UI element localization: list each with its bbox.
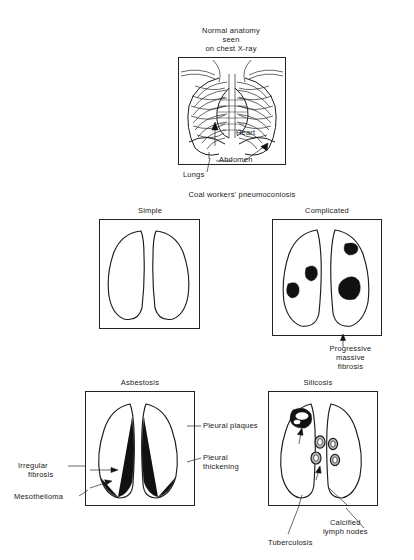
normal-title-line1: Normal anatomy (176, 26, 286, 35)
complicated-cwp-frame (272, 219, 382, 336)
simple-cwp-frame (99, 219, 200, 329)
label-heart: Heart (236, 128, 255, 137)
coal-section-title: Coal workers' pneumoconiosis (152, 190, 332, 199)
normal-anatomy-frame (178, 57, 286, 165)
pmf-mass-left-lower (287, 283, 299, 298)
pmf-caption-line2: massive (313, 353, 388, 362)
normal-title-line3: on chest X-ray (176, 44, 286, 53)
label-tuberculosis: Tuberculosis (268, 538, 313, 547)
normal-leader-lines (170, 150, 300, 180)
silicosis-frame (268, 391, 378, 506)
pmf-mass-left-upper (305, 266, 317, 281)
pmf-caption-line3: fibrosis (313, 362, 388, 371)
label-pleural-thickening-line2: thickening (203, 462, 239, 471)
chest-xray-drawing (179, 58, 285, 164)
label-calcified-nodes-line2: lymph nodes (323, 527, 368, 536)
asbestosis-lungs (86, 392, 194, 505)
label-pleural-thickening-line1: Pleural (203, 453, 228, 462)
label-irregular-fibrosis-line2: fibrosis (28, 470, 53, 479)
asbestosis-left-leaders (66, 460, 92, 502)
complicated-cwp-lungs (273, 220, 381, 335)
tb-apical-cavity (290, 408, 312, 428)
complicated-title: Complicated (272, 206, 382, 215)
silicosis-lungs (269, 392, 377, 505)
label-pleural-plaques: Pleural plaques (203, 421, 258, 430)
asbestosis-frame (85, 391, 195, 506)
label-mesothelioma: Mesothelioma (14, 492, 63, 501)
pmf-caption-line1: Progressive (313, 344, 388, 353)
silicosis-title: Silicosis (263, 378, 373, 387)
label-irregular-fibrosis-line1: Irregular (18, 461, 48, 470)
normal-title-line2: seen (176, 35, 286, 44)
simple-cwp-lungs (100, 220, 199, 328)
simple-title: Simple (100, 206, 200, 215)
asbestosis-title: Asbestosis (85, 378, 195, 387)
label-calcified-nodes-line1: Calcified (330, 518, 361, 527)
pmf-mass-right-apex (344, 243, 358, 255)
